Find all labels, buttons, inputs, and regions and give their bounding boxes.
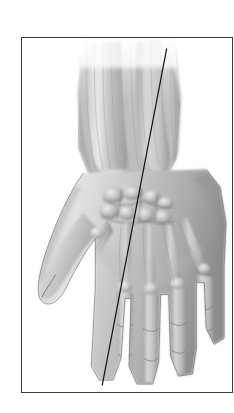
hand-anatomy-illustration: [22, 38, 232, 392]
forearm-top-fade: [68, 38, 191, 68]
figure-root: Anatomical illustration of the dorsum of…: [0, 0, 234, 413]
plate-border: [21, 37, 233, 393]
carpal-trapezoid: [118, 206, 136, 220]
middle-finger-shaft: [143, 295, 159, 383]
figure-title: Anatomical illustration of the dorsum of…: [0, 0, 1, 1]
figure-caption: Anatomical illustration of the dorsum of…: [0, 0, 1, 1]
carpal-trapezium: [99, 203, 119, 219]
carpal-capitate: [135, 207, 155, 223]
thumb-mcp-joint: [90, 227, 104, 239]
